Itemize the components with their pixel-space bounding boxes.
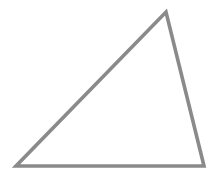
triangle-drawing-canvas bbox=[0, 0, 217, 173]
shape-svg bbox=[0, 0, 217, 173]
